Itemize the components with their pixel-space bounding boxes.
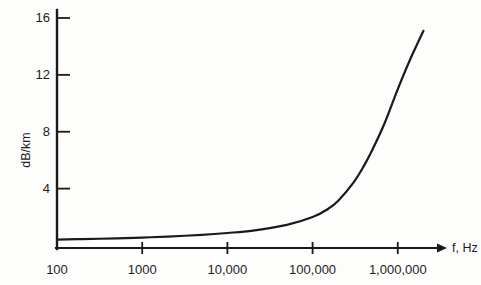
x-axis-arrow-icon [437, 244, 447, 253]
data-series-group [57, 31, 423, 240]
y-tick-label: 4 [43, 181, 50, 196]
x-tick-label-group: 100100010,000100,0001,000,000 [46, 262, 427, 277]
y-tick-label: 12 [36, 67, 50, 82]
x-tick-label: 100 [46, 262, 68, 277]
y-tick-label: 16 [36, 10, 50, 25]
y-tick-label-group: 481216 [36, 10, 50, 196]
x-axis-title: f, Hz [452, 241, 478, 255]
axes-group [56, 10, 447, 253]
chart-figure: 481216 100100010,000100,0001,000,000 dB/… [0, 0, 481, 285]
x-tick-label: 100,000 [289, 262, 336, 277]
chart-svg: 481216 100100010,000100,0001,000,000 dB/… [0, 0, 481, 285]
y-tick-group [57, 18, 70, 189]
data-curve [57, 31, 423, 240]
x-tick-label: 10,000 [208, 262, 248, 277]
y-axis-title: dB/km [19, 132, 33, 167]
x-tick-label: 1,000,000 [369, 262, 427, 277]
x-tick-label: 1000 [128, 262, 157, 277]
y-tick-label: 8 [43, 124, 50, 139]
